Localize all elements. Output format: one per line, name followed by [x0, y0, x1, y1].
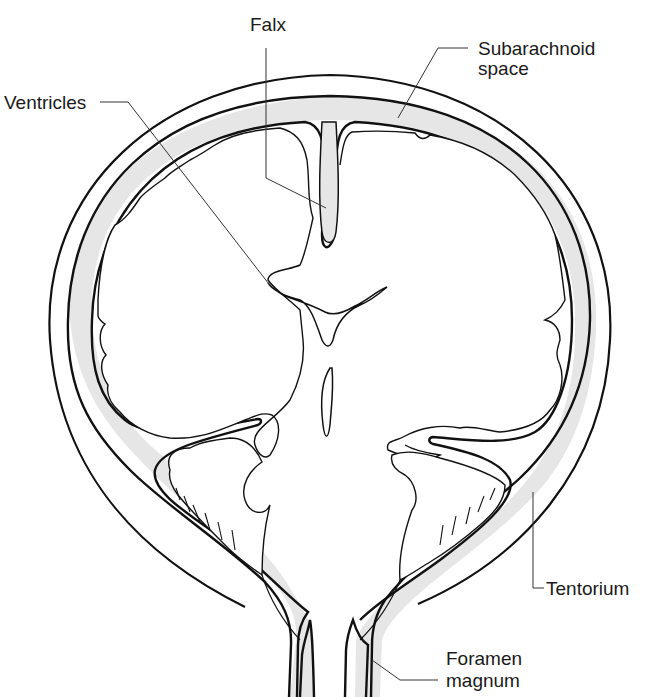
label-subarachnoid-line1: Subarachnoid: [478, 38, 595, 60]
third-ventricle: [322, 368, 333, 436]
falx-shape: [320, 122, 339, 243]
label-ventricles: Ventricles: [4, 92, 86, 114]
label-falx: Falx: [250, 14, 286, 36]
foramen-magnum-leader: [372, 660, 438, 680]
label-foramen-line2: magnum: [446, 670, 520, 692]
label-tentorium: Tentorium: [546, 578, 629, 600]
label-foramen-line1: Foramen: [446, 648, 522, 670]
left-cerebellum: [169, 438, 270, 575]
label-subarachnoid-line2: space: [478, 58, 529, 80]
tentorium-leader: [533, 492, 544, 588]
